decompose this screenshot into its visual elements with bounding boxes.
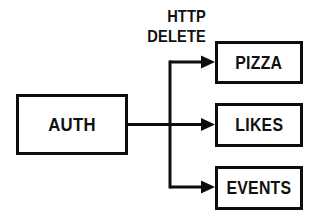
arrowhead-events-icon [201,181,215,194]
arrowhead-pizza-icon [201,56,215,69]
node-events-label: EVENTS [227,179,292,197]
edge-label-http-delete: HTTP DELETE [108,7,206,47]
node-auth-label: AUTH [48,115,96,134]
node-auth[interactable]: AUTH [16,94,128,155]
edge-label-line-2: DELETE [122,27,206,47]
node-likes-label: LIKES [235,116,283,134]
edge-label-line-1: HTTP [122,7,206,27]
diagram-canvas: HTTP DELETE AUTH PIZZA LIKES EVENTS [0,0,318,224]
node-likes[interactable]: LIKES [215,103,303,147]
node-pizza[interactable]: PIZZA [215,41,303,84]
node-pizza-label: PIZZA [235,54,282,72]
arrowhead-likes-icon [201,118,215,131]
node-events[interactable]: EVENTS [215,166,303,210]
